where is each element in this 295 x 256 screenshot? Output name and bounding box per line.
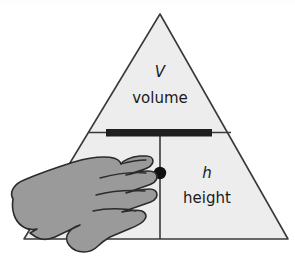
division-bar-icon — [106, 129, 212, 137]
height-word: height — [183, 189, 231, 207]
height-symbol: h — [202, 164, 212, 182]
diagram-canvas: V volume h height b base — [0, 0, 295, 256]
formula-triangle-figure: V volume h height b base — [0, 0, 295, 256]
volume-word: volume — [132, 89, 188, 107]
volume-symbol: V — [155, 63, 167, 81]
